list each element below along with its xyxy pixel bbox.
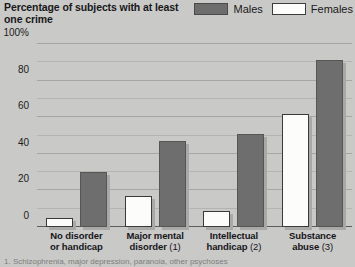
chart-legend: Males Females [194, 3, 353, 15]
bar-males[interactable] [80, 172, 107, 227]
y-axis-tick-label: 100% [0, 27, 29, 38]
chart-footnote: 1. Schizophrenia, major depression, para… [4, 257, 352, 266]
y-axis-tick-label: 40 [0, 137, 29, 148]
bar-females[interactable] [125, 196, 152, 227]
bar-females-fill[interactable] [203, 211, 230, 227]
bar-group [195, 44, 274, 227]
y-axis-tick-label: 60 [0, 100, 29, 111]
legend-label-males: Males [233, 3, 262, 15]
bar-males[interactable] [316, 60, 343, 227]
y-axis-tick-label: 0 [0, 210, 29, 221]
bar-males-fill[interactable] [316, 60, 343, 227]
bar-group [37, 44, 116, 227]
chart-page: Percentage of subjects with at least one… [0, 0, 355, 267]
legend-entry-females: Females [272, 3, 353, 15]
y-axis-tick-label: 80 [0, 64, 29, 75]
bar-females[interactable] [282, 114, 309, 227]
bar-groups [37, 44, 352, 227]
category-axis: No disorderor handicapMajor mentaldisord… [37, 231, 352, 252]
bar-males-fill[interactable] [80, 172, 107, 227]
bar-males[interactable] [159, 141, 186, 227]
category-label: Major mentaldisorder (1) [116, 231, 195, 252]
legend-swatch-males-icon [194, 3, 228, 15]
category-label: Substanceabuse (3) [273, 231, 352, 252]
chart-title: Percentage of subjects with at least one… [4, 1, 194, 25]
bar-females-fill[interactable] [282, 114, 309, 227]
bar-females-fill[interactable] [125, 196, 152, 227]
bar-group [273, 44, 352, 227]
bar-females[interactable] [46, 218, 73, 227]
bar-males-fill[interactable] [159, 141, 186, 227]
legend-swatch-females-icon [272, 3, 306, 15]
legend-entry-males: Males [194, 3, 262, 15]
bar-males[interactable] [237, 134, 264, 227]
bar-females[interactable] [203, 211, 230, 227]
category-label: No disorderor handicap [37, 231, 116, 252]
bar-females-fill[interactable] [46, 218, 73, 227]
y-axis-tick-label: 20 [0, 173, 29, 184]
bar-males-fill[interactable] [237, 134, 264, 227]
bar-group [116, 44, 195, 227]
category-label: Intellectualhandicap (2) [195, 231, 274, 252]
legend-label-females: Females [311, 3, 353, 15]
